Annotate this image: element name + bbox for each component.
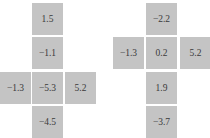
cell-top2: 1.5 [32, 3, 63, 35]
cell-bottom2: −3.7 [146, 106, 177, 138]
cell-top1: −1.1 [32, 37, 63, 69]
cell-left: −1.3 [0, 72, 31, 104]
cell-left: −1.3 [113, 37, 144, 69]
cell-top1: −2.2 [146, 3, 177, 35]
cell-center: 0.2 [146, 37, 177, 69]
cell-bottom1: 1.9 [146, 72, 177, 104]
cell-right: 5.2 [180, 37, 210, 69]
cell-bottom1: −4.5 [32, 106, 63, 138]
cell-center: −5.3 [32, 72, 63, 104]
cell-right: 5.2 [65, 72, 96, 104]
